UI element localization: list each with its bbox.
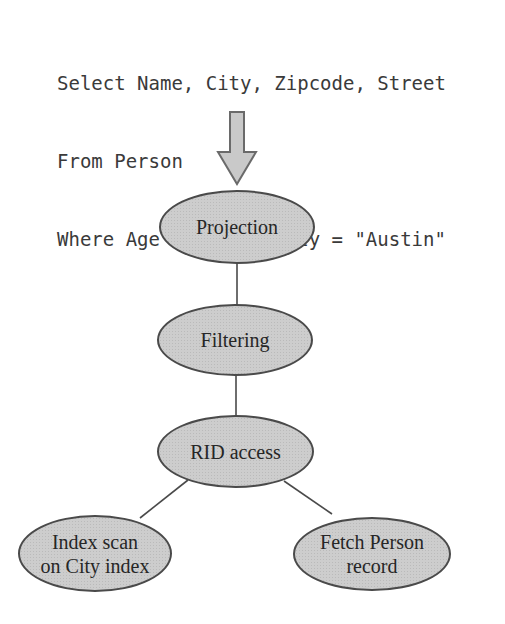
node-projection: Projection [159,190,315,264]
node-label: Fetch Person [320,530,424,554]
node-filtering: Filtering [157,304,313,376]
node-label: record [346,554,397,578]
node-label: Filtering [201,328,270,352]
query-plan-diagram: Select Name, City, Zipcode, Street From … [0,0,505,624]
node-label: on City index [41,554,150,578]
edge-rid-indexscan [140,480,188,518]
node-label: Index scan [52,530,138,554]
node-fetch-person: Fetch Person record [293,517,451,591]
node-label: RID access [190,440,281,464]
node-label: Projection [196,215,278,239]
down-arrow-icon [218,112,256,184]
node-rid-access: RID access [157,415,314,488]
edge-rid-fetch [284,481,332,514]
node-index-scan: Index scan on City index [18,515,172,592]
